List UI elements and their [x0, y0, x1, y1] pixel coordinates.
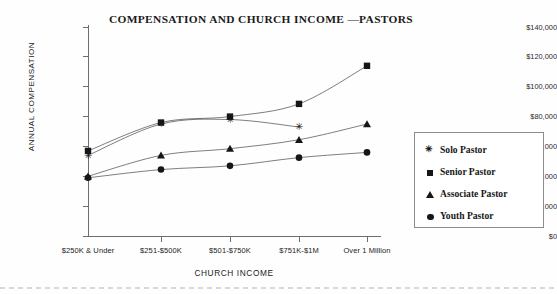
- series-line: [88, 152, 367, 177]
- x-tick-4: [367, 236, 368, 242]
- y-tick-3: [83, 146, 89, 147]
- series-solo-pastor: ✳✳✳✳: [84, 114, 303, 161]
- data-point-marker: ✳: [295, 121, 303, 132]
- x-tick-3: [299, 236, 300, 242]
- legend-label-solo-pastor: Solo Pastor: [440, 145, 487, 155]
- data-point-marker: [227, 113, 233, 119]
- y-tick-4: [83, 116, 89, 117]
- x-tick-2: [230, 236, 231, 242]
- series-line: [88, 66, 367, 151]
- x-axis-line: [88, 236, 381, 237]
- y-tick-6: [83, 56, 89, 57]
- series-senior-pastor: [85, 63, 370, 154]
- chart-title: COMPENSATION AND CHURCH INCOME —PASTORS: [96, 13, 426, 25]
- data-point-marker: [296, 154, 303, 161]
- y-tick-label-7: $140,000: [509, 23, 557, 32]
- data-point-marker: [295, 136, 303, 143]
- legend-item-youth-pastor[interactable]: Youth Pastor: [425, 207, 494, 225]
- data-point-marker: [157, 152, 165, 159]
- data-point-marker: [158, 166, 165, 173]
- legend-label-associate-pastor: Associate Pastor: [440, 189, 507, 199]
- data-point-marker: [227, 163, 234, 170]
- y-axis-title: ANNUAL COMPENSATION: [27, 22, 36, 172]
- data-point-marker: [364, 149, 371, 156]
- series-line: [88, 124, 367, 176]
- y-tick-label-4: $80,000: [509, 112, 557, 121]
- y-tick-label-6: $120,000: [509, 52, 557, 61]
- triangle-marker-icon: [425, 189, 435, 199]
- legend-item-solo-pastor[interactable]: Solo Pastor: [425, 141, 487, 159]
- legend-item-associate-pastor[interactable]: Associate Pastor: [425, 185, 507, 203]
- chart-legend: Solo Pastor Senior Pastor Associate Past…: [414, 132, 544, 228]
- y-tick-0: [83, 236, 89, 237]
- x-tick-1: [161, 236, 162, 242]
- data-point-marker: [158, 119, 164, 125]
- y-tick-7: [83, 27, 89, 28]
- chart-figure: COMPENSATION AND CHURCH INCOME —PASTORS …: [0, 0, 557, 294]
- x-tick-label-4: Over 1 Million: [324, 246, 410, 255]
- square-marker-icon: [425, 167, 435, 177]
- data-point-marker: ✳: [157, 118, 165, 129]
- data-point-marker: ✳: [226, 114, 234, 125]
- legend-label-senior-pastor: Senior Pastor: [440, 167, 496, 177]
- data-point-marker: [364, 63, 370, 69]
- y-tick-label-0: $0: [509, 232, 557, 241]
- legend-item-senior-pastor[interactable]: Senior Pastor: [425, 163, 496, 181]
- y-tick-1: [83, 206, 89, 207]
- x-axis-title: CHURCH INCOME: [88, 268, 380, 278]
- circle-marker-icon: [425, 211, 435, 221]
- data-point-marker: [226, 145, 234, 152]
- y-tick-2: [83, 176, 89, 177]
- data-point-marker: [296, 101, 302, 107]
- data-point-marker: [363, 120, 371, 127]
- y-tick-label-5: $100,000: [509, 82, 557, 91]
- legend-label-youth-pastor: Youth Pastor: [440, 211, 494, 221]
- y-tick-5: [83, 86, 89, 87]
- series-line: [88, 119, 299, 155]
- bottom-divider: [0, 287, 557, 289]
- star-marker-icon: [425, 145, 435, 155]
- series-associate-pastor: [84, 120, 371, 179]
- series-youth-pastor: [85, 149, 371, 181]
